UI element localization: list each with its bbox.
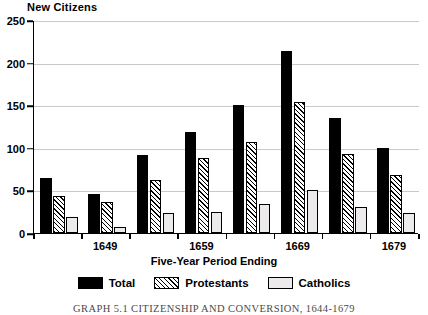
bar-chart: New Citizens 050100150200250 16491659166…: [0, 0, 428, 315]
bar-catholics-1659: [211, 212, 223, 233]
legend-swatch-catholics: [268, 277, 293, 289]
bar-total-1674: [329, 118, 341, 233]
x-axis-tick: [33, 234, 35, 239]
chart-title: New Citizens: [27, 1, 97, 13]
x-axis-label: 1649: [93, 240, 117, 252]
bar-group: [233, 21, 271, 233]
bar-total-1659: [185, 132, 197, 233]
legend-label: Protestants: [185, 277, 248, 289]
bar-protestants-1659: [198, 158, 210, 233]
legend-swatch-total: [78, 277, 103, 289]
x-axis-tick: [418, 234, 420, 239]
x-axis-tick: [129, 234, 131, 239]
bar-group: [329, 21, 367, 233]
bar-total-1679: [377, 148, 389, 233]
bar-total-1669: [281, 51, 293, 233]
bar-protestants-1664: [246, 142, 258, 233]
bar-catholics-1669: [307, 190, 319, 233]
bar-catholics-1664: [259, 204, 271, 233]
bar-protestants-1654: [150, 180, 162, 233]
y-axis-label: 200: [0, 58, 25, 70]
x-axis-tick: [322, 234, 324, 239]
bar-total-1644: [40, 178, 52, 233]
x-axis-tick: [370, 234, 372, 239]
bar-protestants-1644: [53, 196, 65, 233]
legend-label: Catholics: [299, 277, 351, 289]
legend-item-catholics: Catholics: [268, 277, 351, 289]
x-axis-label: 1669: [285, 240, 309, 252]
bar-group: [137, 21, 175, 233]
y-axis-label: 50: [0, 185, 25, 197]
y-axis-tick: [27, 148, 33, 150]
y-axis-label: 0: [0, 228, 25, 240]
bar-protestants-1674: [342, 154, 354, 233]
bar-protestants-1649: [101, 202, 113, 233]
bar-group: [88, 21, 126, 233]
plot-area: [33, 21, 418, 234]
y-axis-tick: [27, 105, 33, 107]
y-axis-tick: [27, 63, 33, 65]
x-axis-title: Five-Year Period Ending: [0, 255, 428, 267]
bar-catholics-1654: [163, 213, 175, 233]
bar-total-1654: [137, 155, 149, 233]
y-axis-tick: [27, 191, 33, 193]
bar-total-1664: [233, 105, 245, 233]
bar-total-1649: [88, 194, 100, 233]
bar-protestants-1679: [390, 175, 402, 233]
bar-group: [185, 21, 223, 233]
bar-catholics-1674: [355, 207, 367, 233]
legend-label: Total: [109, 277, 136, 289]
y-axis-label: 100: [0, 143, 25, 155]
bar-protestants-1669: [294, 102, 306, 233]
y-axis-label: 150: [0, 100, 25, 112]
y-axis-label: 250: [0, 15, 25, 27]
bar-catholics-1679: [403, 213, 415, 233]
x-axis-label: 1679: [382, 240, 406, 252]
legend-item-protestants: Protestants: [154, 277, 248, 289]
y-axis-tick: [27, 20, 33, 22]
bar-group: [377, 21, 415, 233]
x-axis-tick: [177, 234, 179, 239]
x-axis-label: 1659: [189, 240, 213, 252]
figure-caption: GRAPH 5.1 CITIZENSHIP AND CONVERSION, 16…: [0, 303, 428, 314]
x-axis-tick: [274, 234, 276, 239]
bar-catholics-1644: [66, 217, 78, 233]
x-axis-tick: [81, 234, 83, 239]
bar-group: [281, 21, 319, 233]
bar-catholics-1649: [114, 227, 126, 233]
chart-legend: TotalProtestantsCatholics: [0, 277, 428, 289]
x-axis-tick: [226, 234, 228, 239]
legend-item-total: Total: [78, 277, 136, 289]
legend-swatch-protestants: [154, 277, 179, 289]
bar-group: [40, 21, 78, 233]
